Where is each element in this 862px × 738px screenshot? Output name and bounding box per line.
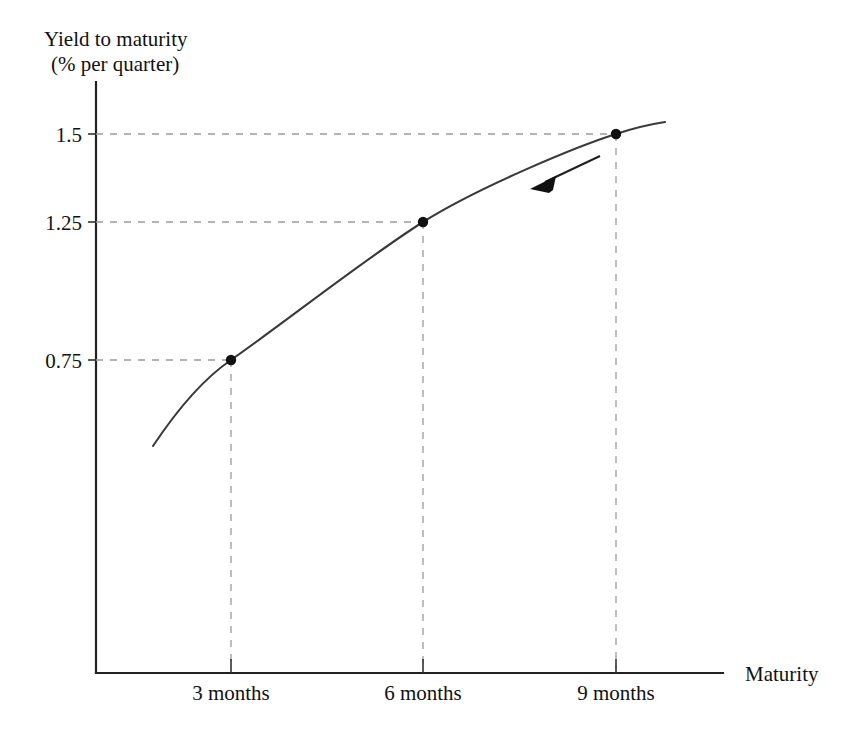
chart-background xyxy=(0,0,862,738)
y-axis-title-line2: (% per quarter) xyxy=(51,52,179,76)
y-tick-label-1-5: 1.5 xyxy=(56,123,82,147)
data-point-3-months xyxy=(226,355,236,365)
y-axis-title-line1: Yield to maturity xyxy=(44,27,188,51)
x-tick-label-6-months: 6 months xyxy=(384,681,462,705)
x-axis-title: Maturity xyxy=(745,662,819,686)
y-tick-label-0-75: 0.75 xyxy=(45,349,82,373)
x-tick-label-3-months: 3 months xyxy=(192,681,270,705)
data-point-9-months xyxy=(611,129,621,139)
data-point-6-months xyxy=(418,217,428,227)
x-tick-label-9-months: 9 months xyxy=(577,681,655,705)
yield-curve-figure: Yield to maturity (% per quarter) Maturi… xyxy=(0,0,862,738)
chart-canvas: Yield to maturity (% per quarter) Maturi… xyxy=(0,0,862,738)
y-tick-label-1-25: 1.25 xyxy=(45,211,82,235)
